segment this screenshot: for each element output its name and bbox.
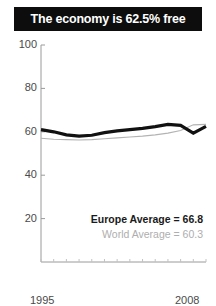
legend-entry-europe: Europe Average = 66.8 [91,212,203,227]
y-tick-label: 80 [11,81,37,93]
y-tick-label: 60 [11,125,37,137]
page-title: The economy is 62.5% free [31,12,186,26]
chart-legend: Europe Average = 66.8 World Average = 60… [91,212,203,242]
chart-svg [0,31,216,297]
series-layer [41,124,206,140]
y-tick-label: 20 [11,212,37,224]
x-tick-label-end: 2008 [175,294,199,306]
plot-area: 100 80 60 40 20 1995 2008 Europe Average… [0,31,216,297]
y-tick-label: 100 [11,38,37,50]
y-tick-label: 40 [11,168,37,180]
x-tick-label-start: 1995 [30,294,54,306]
chart-title-banner: The economy is 62.5% free [14,7,202,31]
legend-entry-world: World Average = 60.3 [91,227,203,242]
